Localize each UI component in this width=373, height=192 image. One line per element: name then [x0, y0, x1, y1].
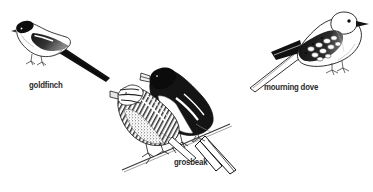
goldfinch-leg-back — [37, 56, 46, 66]
goldfinch-tail-edge — [60, 49, 105, 79]
mourning-dove-beak — [356, 21, 369, 27]
grosbeak-male-eye — [156, 75, 158, 77]
goldfinch-beak — [11, 30, 16, 33]
grosbeak-female-eye — [125, 92, 127, 94]
grosbeak-female-beak — [110, 91, 118, 99]
bird-label-grosbeak: grosbeak — [174, 158, 207, 167]
bird-label-mourning-dove: mourning dove — [264, 83, 318, 92]
mourning-dove-leg-back — [337, 61, 349, 73]
goldfinch-leg-front — [26, 54, 35, 65]
bird-label-goldfinch: goldfinch — [29, 81, 63, 90]
mourning-dove-eye — [347, 19, 350, 22]
grosbeak-illustration — [110, 67, 236, 174]
goldfinch-eye — [21, 28, 23, 30]
goldfinch-illustration — [11, 21, 110, 82]
goldfinch-tail — [59, 47, 110, 82]
bird-illustration-figure: goldfinch grosbeak mourning dove — [0, 0, 373, 192]
grosbeak-female-leg — [142, 144, 154, 158]
mourning-dove-illustration — [250, 12, 369, 92]
